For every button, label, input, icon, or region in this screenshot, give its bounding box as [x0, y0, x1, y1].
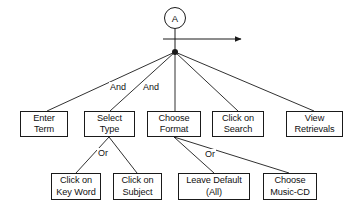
and-junction-dot [172, 49, 178, 55]
node-click-on-subject[interactable]: Click on Subject [113, 173, 162, 200]
node-select-type[interactable]: Select Type [84, 111, 135, 137]
node-line: Enter [33, 113, 54, 124]
node-choose-music-cd[interactable]: Choose Music-CD [263, 173, 317, 200]
edge-label-or-1: Or [97, 148, 109, 158]
node-line: Term [34, 124, 54, 135]
node-line: View [305, 113, 324, 124]
node-line: Subject [123, 187, 153, 198]
node-line: Search [224, 124, 253, 135]
node-line: Choose [158, 113, 189, 124]
edge-junction-to-view-retrievals [175, 52, 314, 111]
edge-choose-format-to-choose-music-cd [174, 137, 289, 173]
root-node-label: A [172, 13, 178, 24]
node-line: Key Word [56, 187, 95, 198]
node-line: Click on [222, 113, 254, 124]
edge-select-type-to-click-on-subject [109, 137, 137, 173]
diagram-canvas: A Enter Term Select Type Choose Format C… [0, 0, 349, 214]
node-line: Retrievals [295, 124, 335, 135]
node-line: Select [97, 113, 122, 124]
node-click-on-key-word[interactable]: Click on Key Word [51, 173, 101, 200]
node-choose-format[interactable]: Choose Format [147, 111, 201, 137]
edge-label-or-2: Or [204, 149, 216, 159]
node-view-retrievals[interactable]: View Retrievals [286, 111, 343, 137]
root-node-a[interactable]: A [164, 7, 186, 29]
edge-junction-to-click-on-search [175, 52, 238, 111]
node-line: Type [100, 124, 120, 135]
node-enter-term[interactable]: Enter Term [20, 111, 68, 137]
node-line: (All) [206, 187, 222, 198]
node-click-on-search[interactable]: Click on Search [212, 111, 264, 137]
node-line: Leave Default [186, 175, 241, 186]
node-line: Click on [60, 175, 92, 186]
node-line: Format [160, 124, 189, 135]
node-line: Choose [274, 175, 305, 186]
edge-label-and-1: And [109, 82, 127, 92]
edge-label-and-2: And [142, 82, 160, 92]
node-leave-default-all[interactable]: Leave Default (All) [178, 173, 250, 200]
node-line: Music-CD [270, 187, 310, 198]
node-line: Click on [122, 175, 154, 186]
